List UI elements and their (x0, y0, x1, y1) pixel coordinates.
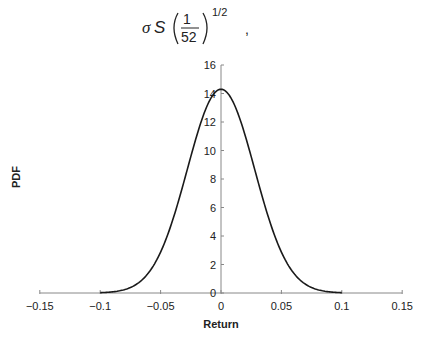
pdf-chart: −0.15−0.1−0.0500.050.10.150246810121416 … (0, 0, 436, 337)
tick-labels: −0.15−0.1−0.0500.050.10.150246810121416 (26, 59, 413, 312)
axes (40, 65, 402, 294)
y-tick-label: 12 (204, 116, 216, 128)
x-tick-label: −0.05 (147, 300, 175, 312)
x-tick-label: −0.1 (89, 300, 111, 312)
y-axis-title: PDF (10, 166, 22, 188)
x-tick-label: 0.15 (391, 300, 412, 312)
x-tick-label: 0 (218, 300, 224, 312)
y-tick-label: 10 (204, 145, 216, 157)
y-tick-label: 16 (204, 59, 216, 71)
y-tick-label: 6 (210, 202, 216, 214)
x-axis-title: Return (203, 318, 239, 330)
x-tick-label: 0.1 (334, 300, 349, 312)
y-tick-label: 2 (210, 259, 216, 271)
y-tick-label: 4 (210, 230, 216, 242)
y-tick-label: 0 (210, 287, 216, 299)
x-tick-label: 0.05 (271, 300, 292, 312)
y-tick-label: 8 (210, 173, 216, 185)
x-tick-label: −0.15 (26, 300, 54, 312)
